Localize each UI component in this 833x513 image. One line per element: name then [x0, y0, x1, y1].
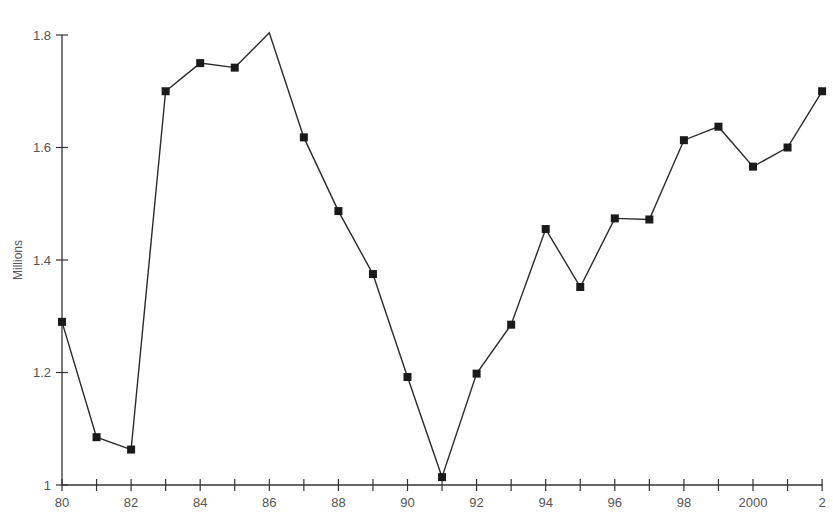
data-point-marker — [369, 270, 377, 278]
data-point-marker — [680, 136, 688, 144]
x-tick-label: 84 — [193, 495, 207, 510]
x-tick-label: 82 — [124, 495, 138, 510]
x-axis: 8082848688909294969820002 — [55, 479, 826, 510]
data-point-marker — [231, 64, 239, 72]
y-tick-label: 1.8 — [33, 28, 51, 43]
data-point-marker — [300, 133, 308, 141]
data-point-marker — [714, 123, 722, 131]
y-axis-title: Millions — [11, 240, 25, 280]
series-line — [62, 33, 822, 477]
data-markers — [58, 59, 826, 481]
y-tick-label: 1.6 — [33, 140, 51, 155]
y-tick-label: 1 — [44, 478, 51, 493]
y-tick-label: 1.4 — [33, 253, 51, 268]
data-point-marker — [611, 214, 619, 222]
data-point-marker — [404, 373, 412, 381]
data-point-marker — [749, 163, 757, 171]
y-tick-label: 1.2 — [33, 365, 51, 380]
data-point-marker — [784, 144, 792, 152]
data-point-marker — [93, 433, 101, 441]
data-point-marker — [196, 59, 204, 67]
data-point-marker — [576, 283, 584, 291]
x-tick-label: 96 — [608, 495, 622, 510]
data-point-marker — [818, 87, 826, 95]
x-tick-label: 86 — [262, 495, 276, 510]
x-tick-label: 94 — [538, 495, 552, 510]
data-point-marker — [162, 87, 170, 95]
x-tick-label: 98 — [677, 495, 691, 510]
y-axis: 11.21.41.61.8 — [33, 28, 68, 493]
data-point-marker — [645, 216, 653, 224]
x-tick-label: 2000 — [739, 495, 768, 510]
data-point-marker — [507, 321, 515, 329]
data-point-marker — [438, 473, 446, 481]
line-chart: 11.21.41.61.8 8082848688909294969820002 … — [0, 0, 833, 513]
x-tick-label: 2 — [818, 495, 825, 510]
data-point-marker — [542, 225, 550, 233]
x-tick-label: 80 — [55, 495, 69, 510]
x-tick-label: 92 — [469, 495, 483, 510]
data-point-marker — [127, 446, 135, 454]
data-point-marker — [58, 318, 66, 326]
x-tick-label: 90 — [400, 495, 414, 510]
data-point-marker — [473, 370, 481, 378]
x-tick-label: 88 — [331, 495, 345, 510]
data-point-marker — [334, 207, 342, 215]
